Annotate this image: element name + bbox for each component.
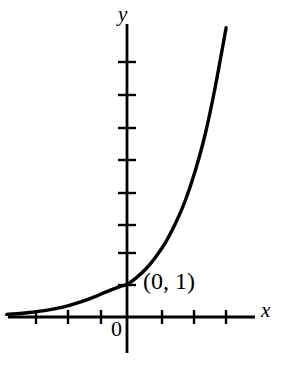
exponential-graph-figure: y x 0 (0, 1) (0, 0, 286, 375)
point-annotation-label: (0, 1) (143, 269, 195, 293)
y-axis-group (118, 24, 136, 353)
x-axis-label: x (261, 300, 270, 321)
origin-label: 0 (111, 318, 122, 340)
y-axis-label: y (118, 4, 127, 25)
graph-canvas (0, 0, 286, 375)
